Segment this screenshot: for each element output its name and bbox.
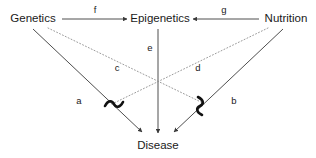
tilde-icon	[105, 101, 123, 107]
edge-b-label: b	[231, 95, 236, 106]
edge-a-line	[33, 29, 142, 132]
edge-b-line	[174, 29, 283, 132]
node-genetics: Genetics	[10, 12, 56, 24]
edge-a-label: a	[76, 95, 82, 106]
edge-d-line	[112, 28, 268, 104]
edge-f: f	[62, 4, 127, 19]
node-disease: Disease	[137, 139, 179, 151]
edge-a: a	[33, 29, 142, 132]
diagram-canvas: f g e a b c d	[0, 0, 316, 158]
edge-e-label: e	[147, 42, 152, 53]
edge-f-label: f	[94, 4, 97, 15]
edge-c-label: c	[115, 62, 120, 73]
interaction-marker-right	[197, 97, 203, 115]
edge-d-label: d	[195, 62, 200, 73]
tilde-icon	[197, 97, 203, 115]
edge-d: d	[112, 28, 268, 104]
interaction-marker-left	[105, 101, 123, 107]
causal-path-diagram: f g e a b c d	[0, 0, 316, 158]
edge-g: g	[193, 4, 259, 19]
edge-g-label: g	[221, 4, 226, 15]
node-nutrition: Nutrition	[265, 12, 308, 24]
node-epigenetics: Epigenetics	[130, 12, 190, 24]
edge-e: e	[147, 29, 158, 133]
edge-b: b	[174, 29, 283, 132]
